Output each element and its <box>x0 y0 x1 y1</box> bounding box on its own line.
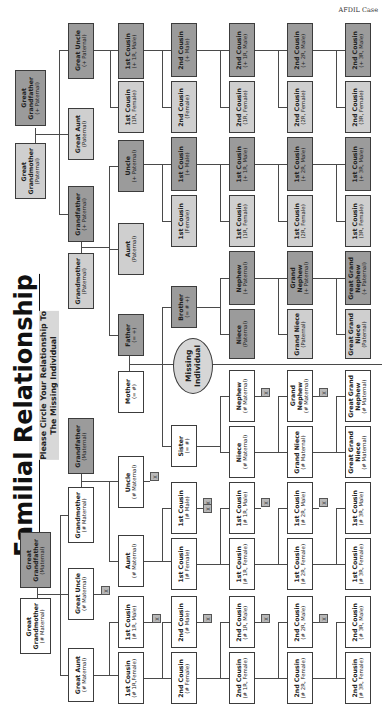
relationship-box-nephew-p[interactable]: Nephew(+ Paternal) <box>229 251 255 305</box>
relationship-box-ggf-m[interactable]: Great Grandfather(Maternal) <box>20 532 51 588</box>
relationship-box-c1-2r-f-p[interactable]: 1st Cousin(2R, Female) <box>287 195 313 247</box>
relationship-box-gm-m[interactable]: Grandmother(# Maternal) <box>68 487 94 543</box>
relationship-box-mother[interactable]: Mother(= #) <box>118 371 144 413</box>
relationship-box-father[interactable]: Father(= +) <box>118 314 144 356</box>
relationship-box-c2-1r-m-p[interactable]: 2nd Cousin(+ 1R, Male) <box>229 23 255 77</box>
relationship-box-c1-1r-f-m2[interactable]: 1st Cousin(# 1R, Female) <box>229 538 255 590</box>
relationship-box-ga-p[interactable]: Great Aunt(Paternal) <box>68 108 94 160</box>
relationship-text: 2nd Cousin(# 3R, Male) <box>351 603 365 642</box>
relationship-box-c1-1r-f-m[interactable]: 1st Cousin(# 1R,Female) <box>118 652 144 704</box>
relationship-label: 2nd Cousin <box>235 658 242 699</box>
relationship-box-c1-1r-m-m[interactable]: 1st Cousin(# 1R, Male) <box>118 596 144 648</box>
relationship-box-gniece-p[interactable]: Grand Niece(Paternal) <box>287 309 313 359</box>
relationship-box-c1-3r-m-p[interactable]: 1st Cousin(+ 3R, Male) <box>345 137 371 191</box>
relationship-qualifier: (# 3R, Female) <box>358 658 365 699</box>
relationship-box-c1-m-p[interactable]: 1st Cousin(+ Male) <box>171 137 197 191</box>
x-marker-glyph: X <box>321 391 327 394</box>
relationship-qualifier: (+ Male) <box>184 146 191 183</box>
connector-line <box>220 221 229 222</box>
relationship-box-gu-p[interactable]: Great Uncle(+ Paternal) <box>68 23 94 79</box>
relationship-box-sister[interactable]: Sister(= #) <box>171 425 197 467</box>
relationship-box-ggniece-m[interactable]: Great Grand Niece(# Maternal) <box>345 426 371 478</box>
x-marker-glyph: X <box>154 617 160 620</box>
relationship-box-c1-1r-m-m2[interactable]: 1st Cousin(# 1R, Male) <box>229 482 255 534</box>
relationship-box-gf-m[interactable]: Grandfather(Maternal) <box>68 418 94 474</box>
relationship-box-c1-m-m[interactable]: 1st Cousin(# Male) <box>171 482 197 534</box>
relationship-box-c1-2r-m-m[interactable]: 1st Cousin(# 2R, Male) <box>287 482 313 534</box>
relationship-box-c2-m-m[interactable]: 2nd Cousin(# Male) <box>171 596 197 648</box>
relationship-label: Grandmother <box>74 492 81 538</box>
relationship-box-c2-f-m[interactable]: 2nd Cousin(# Female) <box>171 652 197 704</box>
connector-line <box>37 594 68 595</box>
relationship-box-niece-m[interactable]: Niece(# Maternal) <box>229 426 255 478</box>
relationship-label: 1st Cousin <box>293 146 300 183</box>
connector-line <box>60 515 68 516</box>
connector-line <box>336 622 345 623</box>
relationship-box-ga-m[interactable]: Great Aunt(# Maternal) <box>68 648 94 702</box>
connector-line <box>220 396 221 452</box>
relationship-box-gu-m[interactable]: Great Uncle(# Maternal) <box>68 568 94 620</box>
relationship-box-c1-1r-m-p[interactable]: 1st Cousin(+ 1R, Male) <box>118 23 144 79</box>
relationship-box-c1-1r-f-p[interactable]: 1st Cousin(1R, Female) <box>118 81 144 133</box>
relationship-box-c1-2r-m-p[interactable]: 1st Cousin(+ 2R, Male) <box>287 137 313 191</box>
relationship-box-ggnephew-p[interactable]: Great Grand Nephew(+ Paternal) <box>345 251 371 305</box>
relationship-box-c1-2r-f-m[interactable]: 1st Cousin(# 2R, Female) <box>287 538 313 590</box>
relationship-qualifier: (+ 2R, Male) <box>300 31 307 70</box>
relationship-box-ggm-m[interactable]: Great Grandmother(# Maternal) <box>20 598 51 654</box>
missing-individual-node[interactable]: Missing Individual <box>173 338 213 394</box>
relationship-box-c2-m-p[interactable]: 2nd Cousin(+ Male) <box>171 23 197 77</box>
relationship-label: 1st Cousin <box>124 604 131 641</box>
relationship-text: Great Grand Niece(# Maternal) <box>347 431 369 474</box>
relationship-box-c1-f-p[interactable]: 1st Cousin(Female) <box>171 195 197 247</box>
relationship-qualifier: (# Male) <box>184 490 191 527</box>
connector-line <box>220 278 221 334</box>
connector-line <box>220 622 229 623</box>
relationship-box-c2-f-p[interactable]: 2nd Cousin(Female) <box>171 81 197 133</box>
relationship-box-gniece-m[interactable]: Grand Niece(# Maternal) <box>287 426 313 478</box>
relationship-box-c2-2r-m-p[interactable]: 2nd Cousin(+ 2R, Male) <box>287 23 313 77</box>
connector-line <box>278 334 287 335</box>
relationship-box-nephew-m[interactable]: Nephew(# Maternal) <box>229 370 255 422</box>
relationship-box-ggm-p[interactable]: Great Grandmother(Paternal) <box>15 143 46 199</box>
relationship-box-c2-3r-f-p[interactable]: 2nd Cousin(3R, Female) <box>345 81 371 133</box>
relationship-box-c1-1r-m-p2[interactable]: 1st Cousin(+ 1R, Male) <box>229 137 255 191</box>
relationship-box-c1-f-m[interactable]: 1st Cousin(# Female) <box>171 538 197 590</box>
relationship-box-aunt-m[interactable]: Aunt(# Maternal) <box>118 535 144 587</box>
relationship-box-c2-1r-f-m[interactable]: 2nd Cousin(# 1R, Female) <box>229 652 255 704</box>
relationship-box-uncle-m[interactable]: Uncle(# Maternal) <box>118 456 144 508</box>
connector-line <box>162 446 171 447</box>
connector-line <box>109 481 110 561</box>
relationship-box-gf-p[interactable]: Grandfather(+ Paternal) <box>68 186 94 242</box>
relationship-box-brother[interactable]: Brother(= # +) <box>171 286 197 328</box>
relationship-box-c2-2r-f-m[interactable]: 2nd Cousin(# 2R, Female) <box>287 652 313 704</box>
relationship-box-ggniece-p[interactable]: Great Grand Niece(Paternal) <box>345 309 371 359</box>
connector-line <box>109 249 118 250</box>
relationship-box-c2-1r-m-m[interactable]: 2nd Cousin(# 1R, Male) <box>229 596 255 648</box>
relationship-box-c2-3r-f-m[interactable]: 2nd Cousin(# 3R, Female) <box>345 652 371 704</box>
relationship-qualifier: (Maternal) <box>39 539 46 582</box>
relationship-box-aunt-p[interactable]: Aunt(Paternal) <box>118 223 144 275</box>
relationship-box-gnephew-p[interactable]: Grand Nephew(+ Paternal) <box>287 251 313 305</box>
relationship-label: 1st Cousin <box>235 490 242 527</box>
relationship-label: 2nd Cousin <box>293 31 300 70</box>
connector-line <box>110 50 111 107</box>
relationship-box-gnephew-m[interactable]: Grand Nephew(# Maternal) <box>287 370 313 422</box>
relationship-box-c1-3r-f-p[interactable]: 1st Cousin(3R, Female) <box>345 195 371 247</box>
connector-line <box>162 622 171 623</box>
relationship-label: Nephew <box>235 379 242 413</box>
relationship-box-uncle-p[interactable]: Uncle(+ Paternal) <box>118 140 144 192</box>
relationship-box-ggf-p[interactable]: Great Grandfather(+ Paternal) <box>15 70 46 126</box>
relationship-box-c1-3r-f-m[interactable]: 1st Cousin(# 3R, Female) <box>345 538 371 590</box>
relationship-box-c2-3r-m-m[interactable]: 2nd Cousin(# 3R, Male) <box>345 596 371 648</box>
relationship-box-c2-1r-f-p[interactable]: 2nd Cousin(1R, Female) <box>229 81 255 133</box>
relationship-box-ggnephew-m[interactable]: Great Grand Nephew(# Maternal) <box>345 370 371 422</box>
relationship-box-c2-2r-m-m[interactable]: 2nd Cousin(# 2R, Male) <box>287 596 313 648</box>
relationship-text: 1st Cousin(# 3R, Female) <box>351 544 365 585</box>
relationship-box-c2-3r-m-p[interactable]: 2nd Cousin(+ 3R, Male) <box>345 23 371 77</box>
relationship-box-c1-1r-f-p2[interactable]: 1st Cousin(1R, Female) <box>229 195 255 247</box>
relationship-box-gm-p[interactable]: Grandmother(Paternal) <box>68 253 94 309</box>
relationship-box-c1-3r-m-m[interactable]: 1st Cousin(# 3R, Male) <box>345 482 371 534</box>
relationship-label: Great Grandfather <box>20 77 34 120</box>
relationship-box-c2-2r-f-p[interactable]: 2nd Cousin(2R, Female) <box>287 81 313 133</box>
relationship-box-niece-p[interactable]: Niece(Paternal) <box>229 309 255 359</box>
